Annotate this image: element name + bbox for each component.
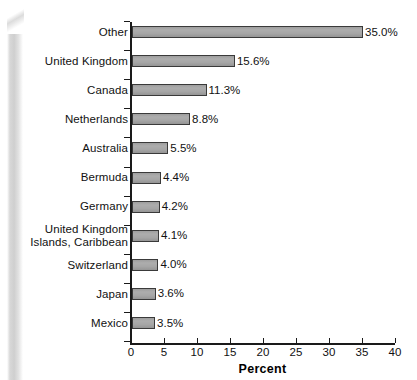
x-axis-tick-label: 35: [347, 346, 377, 358]
category-label: United KingdomIslands, Caribbean: [0, 223, 128, 250]
bar-value-label: 11.3%: [209, 84, 241, 96]
y-axis-tick: [124, 21, 130, 22]
bar-value-label: 4.4%: [163, 171, 189, 183]
bar: [132, 288, 156, 300]
category-label-line: Mexico: [0, 317, 128, 330]
bar-value-label: 4.1%: [161, 229, 187, 241]
category-label-line: Bermuda: [0, 171, 128, 184]
x-axis-tick-label: 0: [116, 346, 146, 358]
category-label-line: Netherlands: [0, 113, 128, 126]
bar-value-label: 4.0%: [160, 258, 186, 270]
y-axis-tick: [124, 283, 130, 284]
category-label-line: United Kingdom: [0, 223, 128, 237]
bar: [132, 201, 160, 213]
bar: [132, 55, 235, 67]
y-axis-tick: [124, 108, 130, 109]
category-label-line: Japan: [0, 288, 128, 301]
x-axis-tick-label: 20: [248, 346, 278, 358]
bar: [132, 172, 161, 184]
bar-value-label: 5.5%: [170, 142, 196, 154]
category-label-line: Other: [0, 26, 128, 39]
category-label: Germany: [0, 200, 128, 213]
x-axis-tick: [131, 338, 132, 343]
bar: [132, 142, 168, 154]
y-axis-tick: [124, 137, 130, 138]
x-axis-tick: [329, 338, 330, 343]
y-axis-tick: [124, 196, 130, 197]
bar-chart-plot-area: Other35.0%United Kingdom15.6%Canada11.3%…: [0, 0, 417, 380]
category-label: Switzerland: [0, 259, 128, 272]
y-axis-tick: [124, 50, 130, 51]
category-label-line: Switzerland: [0, 259, 128, 272]
category-label-line: United Kingdom: [0, 55, 128, 68]
bar-value-label: 15.6%: [237, 55, 270, 67]
bar: [132, 113, 190, 125]
bar: [132, 26, 363, 38]
y-axis-tick: [124, 312, 130, 313]
x-axis-tick: [263, 338, 264, 343]
x-axis-tick-label: 5: [149, 346, 179, 358]
bar: [132, 259, 158, 271]
category-label-line: Islands, Caribbean: [0, 236, 128, 250]
x-axis-title: Percent: [130, 362, 395, 376]
bar: [132, 230, 159, 242]
x-axis-line: [130, 343, 395, 345]
x-axis-tick: [362, 338, 363, 343]
bar-value-label: 35.0%: [365, 26, 398, 38]
category-label: Japan: [0, 288, 128, 301]
category-label-line: Canada: [0, 84, 128, 97]
x-axis-tick-label: 10: [182, 346, 212, 358]
y-axis-tick: [124, 341, 130, 342]
y-axis-tick: [124, 254, 130, 255]
category-label: Australia: [0, 142, 128, 155]
x-axis-tick-label: 25: [281, 346, 311, 358]
bar: [132, 84, 207, 96]
bar-value-label: 3.5%: [157, 317, 183, 329]
category-label: Mexico: [0, 317, 128, 330]
x-axis-tick-label: 15: [215, 346, 245, 358]
category-label: Bermuda: [0, 171, 128, 184]
x-axis-tick: [164, 338, 165, 343]
x-axis-tick: [395, 338, 396, 343]
category-label: United Kingdom: [0, 55, 128, 68]
bar: [132, 317, 155, 329]
category-label: Canada: [0, 84, 128, 97]
category-label-line: Australia: [0, 142, 128, 155]
category-label: Other: [0, 26, 128, 39]
x-axis-tick: [197, 338, 198, 343]
x-axis-tick: [296, 338, 297, 343]
bar-value-label: 4.2%: [162, 200, 188, 212]
chart-page: Other35.0%United Kingdom15.6%Canada11.3%…: [0, 0, 417, 380]
bar-value-label: 3.6%: [158, 287, 184, 299]
y-axis-tick: [124, 167, 130, 168]
y-axis-tick: [124, 79, 130, 80]
x-axis-tick-label: 30: [314, 346, 344, 358]
y-axis-tick: [124, 225, 130, 226]
x-axis-tick: [230, 338, 231, 343]
x-axis-tick-label: 40: [380, 346, 410, 358]
bar-value-label: 8.8%: [192, 113, 218, 125]
category-label-line: Germany: [0, 200, 128, 213]
category-label: Netherlands: [0, 113, 128, 126]
